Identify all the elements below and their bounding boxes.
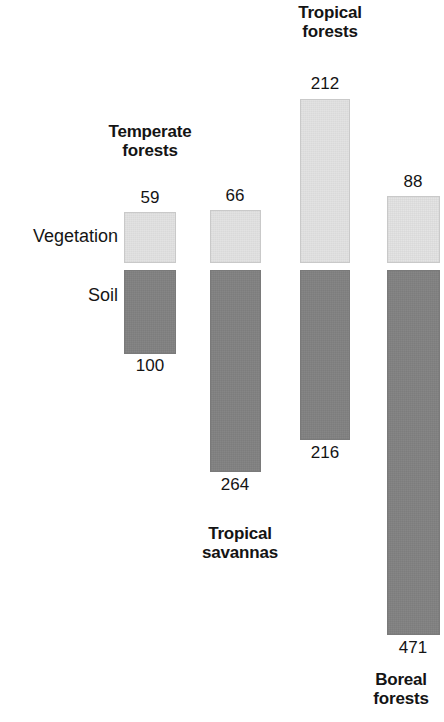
bar-vegetation-temperate-forests [124,212,176,263]
bar-soil-boreal-forests [387,270,440,635]
group-title-boreal-forests: Boreal forests [358,670,444,708]
series-label-vegetation: Vegetation [0,226,118,246]
bar-soil-tropical-forests [300,270,350,440]
group-title-tropical-savannas: Tropical savannas [175,524,305,562]
value-label-soil-boreal-forests: 471 [383,638,443,657]
series-label-soil: Soil [0,285,118,305]
value-label-vegetation-temperate-forests: 59 [120,188,180,207]
value-label-vegetation-tropical-forests: 212 [295,74,355,93]
group-title-tropical-forests: Tropical forests [265,3,395,41]
value-label-vegetation-tropical-savannas: 66 [205,186,265,205]
value-label-soil-tropical-savannas: 264 [205,475,265,494]
value-label-soil-tropical-forests: 216 [295,443,355,462]
carbon-stock-bar-chart: Tropical forests Temperate forests Tropi… [0,0,444,722]
group-title-temperate-forests: Temperate forests [85,122,215,160]
bar-vegetation-boreal-forests [387,196,440,263]
value-label-soil-temperate-forests: 100 [120,356,180,375]
bar-vegetation-tropical-savannas [210,210,261,263]
bar-soil-temperate-forests [124,270,176,354]
bar-soil-tropical-savannas [210,270,261,472]
bar-vegetation-tropical-forests [300,99,350,263]
value-label-vegetation-boreal-forests: 88 [383,172,443,191]
